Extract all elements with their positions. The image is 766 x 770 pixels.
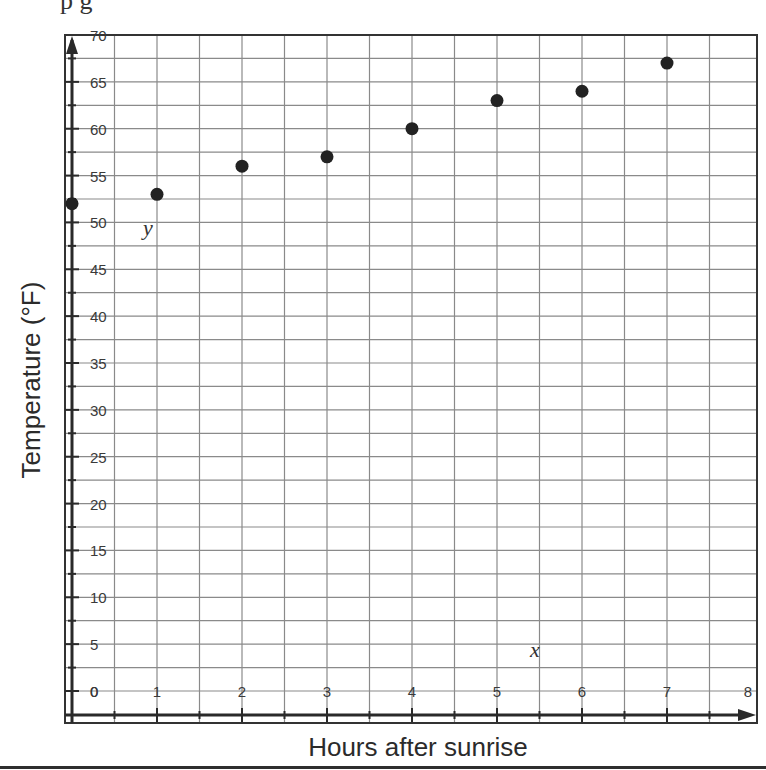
- data-point: [236, 160, 249, 173]
- data-point: [491, 94, 504, 107]
- y-axis-title: Temperature (°F): [16, 282, 46, 479]
- grid-lines: [65, 35, 757, 723]
- data-point: [66, 197, 79, 210]
- x-tick-label: 2: [238, 683, 246, 700]
- y-tick-label: 60: [90, 121, 107, 138]
- scatter-chart: 0510152025303540455055606570012345678 y …: [0, 0, 766, 770]
- x-axis-title: Hours after sunrise: [308, 732, 528, 762]
- data-point: [321, 150, 334, 163]
- x-tick-label: 0: [90, 683, 98, 700]
- bottom-rule: [0, 766, 766, 769]
- y-tick-label: 40: [90, 308, 107, 325]
- y-variable-label: y: [141, 215, 153, 240]
- x-tick-label: 1: [153, 683, 161, 700]
- y-tick-label: 5: [90, 636, 98, 653]
- y-tick-label: 70: [90, 27, 107, 44]
- x-variable-label: x: [529, 637, 540, 662]
- y-axis-arrow-icon: [66, 36, 78, 54]
- y-tick-label: 20: [90, 496, 107, 513]
- data-point: [661, 57, 674, 70]
- x-tick-label: 3: [323, 683, 331, 700]
- data-point: [406, 122, 419, 135]
- x-tick-label: 8: [744, 683, 752, 700]
- y-tick-label: 30: [90, 402, 107, 419]
- axes: [65, 36, 756, 723]
- x-tick-label: 6: [578, 683, 586, 700]
- x-axis-arrow-icon: [738, 709, 756, 721]
- y-tick-label: 15: [90, 542, 107, 559]
- y-tick-label: 10: [90, 589, 107, 606]
- y-tick-label: 65: [90, 74, 107, 91]
- x-tick-label: 5: [493, 683, 501, 700]
- y-tick-label: 45: [90, 261, 107, 278]
- x-tick-label: 7: [663, 683, 671, 700]
- data-point: [151, 188, 164, 201]
- y-tick-label: 35: [90, 355, 107, 372]
- chart-frame: [65, 35, 757, 723]
- y-tick-label: 50: [90, 214, 107, 231]
- x-tick-label: 4: [408, 683, 416, 700]
- y-tick-label: 55: [90, 168, 107, 185]
- y-tick-label: 25: [90, 449, 107, 466]
- data-point: [576, 85, 589, 98]
